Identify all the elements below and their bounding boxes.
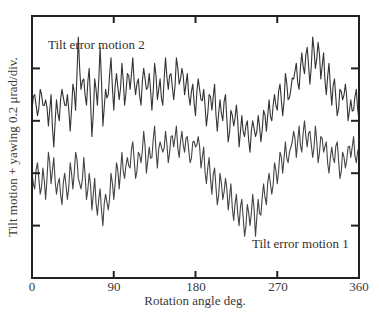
x-tick-label-360: 360 [349, 279, 369, 295]
x-tick-label-90: 90 [108, 279, 121, 295]
y-axis-title: Tilt motion + yawing 0.2 μrad/div. [5, 57, 21, 236]
x-tick-label-270: 270 [268, 279, 288, 295]
series-label-motion-1: Tilt error motion 1 [252, 236, 349, 252]
series-line-motion-1 [32, 121, 359, 236]
chart-traces [32, 37, 359, 236]
x-axis-title: Rotation angle deg. [144, 293, 245, 309]
series-label-motion-2: Tilt error motion 2 [48, 37, 145, 53]
x-tick-label-0: 0 [29, 279, 36, 295]
